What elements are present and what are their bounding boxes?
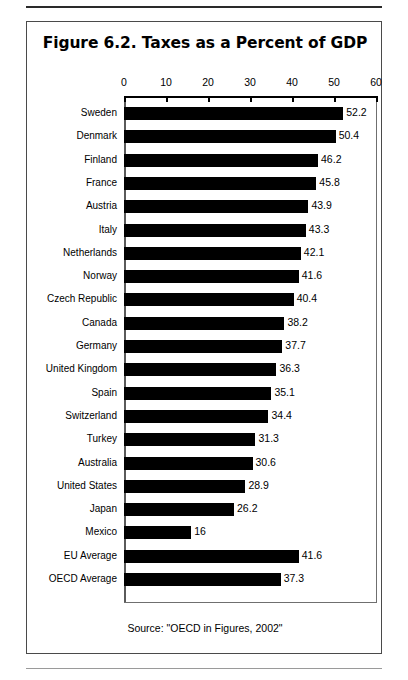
- bar-value-label: 46.2: [318, 153, 341, 166]
- bar-value-label: 30.6: [253, 456, 276, 469]
- x-tick: [334, 96, 336, 102]
- bar: [124, 526, 191, 539]
- x-tick: [250, 96, 252, 102]
- bar: [124, 480, 245, 493]
- bar-row: Germany37.7: [124, 340, 376, 353]
- category-label: Switzerland: [28, 409, 122, 422]
- bar: [124, 177, 316, 190]
- category-label: Turkey: [28, 432, 122, 445]
- plot-area: 0102030405060 Sweden52.2Denmark50.4Finla…: [124, 102, 376, 602]
- bar-row: Sweden52.2: [124, 107, 376, 120]
- category-label: OECD Average: [28, 572, 122, 585]
- bar-row: United Kingdom36.3: [124, 363, 376, 376]
- plot-border-bottom: [124, 602, 377, 603]
- figure-frame: Figure 6.2. Taxes as a Percent of GDP 01…: [26, 21, 382, 654]
- bar: [124, 293, 294, 306]
- bar: [124, 573, 281, 586]
- category-label: Canada: [28, 316, 122, 329]
- bar: [124, 340, 282, 353]
- x-tick-label: 20: [202, 76, 214, 88]
- bar-row: Canada38.2: [124, 317, 376, 330]
- bar: [124, 363, 276, 376]
- bar-value-label: 43.3: [306, 223, 329, 236]
- category-label: Czech Republic: [28, 292, 122, 305]
- bar-value-label: 41.6: [299, 549, 322, 562]
- bar: [124, 247, 301, 260]
- chart-title: Figure 6.2. Taxes as a Percent of GDP: [27, 34, 383, 52]
- category-label: United Kingdom: [28, 362, 122, 375]
- bar: [124, 154, 318, 167]
- bar-row: Spain35.1: [124, 387, 376, 400]
- bar-value-label: 26.2: [234, 502, 257, 515]
- bar-value-label: 45.8: [316, 176, 339, 189]
- source-note: Source: "OECD in Figures, 2002": [27, 622, 383, 634]
- category-label: Denmark: [28, 129, 122, 142]
- plot-border-right: [376, 102, 377, 602]
- bar-value-label: 37.3: [281, 572, 304, 585]
- header-rule: [26, 6, 382, 8]
- category-label: EU Average: [28, 549, 122, 562]
- bar: [124, 433, 255, 446]
- bar: [124, 457, 253, 470]
- bar-row: EU Average41.6: [124, 550, 376, 563]
- bar: [124, 224, 306, 237]
- bar-value-label: 40.4: [294, 292, 317, 305]
- bar-value-label: 16: [191, 525, 206, 538]
- x-tick: [292, 96, 294, 102]
- category-label: Italy: [28, 223, 122, 236]
- bar-value-label: 34.4: [268, 409, 291, 422]
- bar: [124, 107, 343, 120]
- bar-value-label: 28.9: [245, 479, 268, 492]
- bar-value-label: 31.3: [255, 432, 278, 445]
- x-tick-label: 60: [370, 76, 382, 88]
- bar-value-label: 50.4: [336, 129, 359, 142]
- x-tick-label: 10: [160, 76, 172, 88]
- bar-value-label: 41.6: [299, 269, 322, 282]
- bar-row: France45.8: [124, 177, 376, 190]
- x-tick: [166, 96, 168, 102]
- category-label: Netherlands: [28, 246, 122, 259]
- category-label: Mexico: [28, 525, 122, 538]
- x-tick: [376, 96, 378, 102]
- x-tick-label: 50: [328, 76, 340, 88]
- bar-row: Turkey31.3: [124, 433, 376, 446]
- category-label: Japan: [28, 502, 122, 515]
- bar-value-label: 37.7: [282, 339, 305, 352]
- bar: [124, 503, 234, 516]
- bar-row: Australia30.6: [124, 457, 376, 470]
- bar-row: Norway41.6: [124, 270, 376, 283]
- bar-value-label: 36.3: [276, 362, 299, 375]
- bar-row: Mexico16: [124, 526, 376, 539]
- x-tick: [124, 96, 126, 102]
- bar-value-label: 42.1: [301, 246, 324, 259]
- bar-row: Netherlands42.1: [124, 247, 376, 260]
- page-bottom-rule: [26, 668, 382, 669]
- bar-value-label: 52.2: [343, 106, 366, 119]
- bar: [124, 130, 336, 143]
- category-label: Norway: [28, 269, 122, 282]
- category-label: Australia: [28, 456, 122, 469]
- bar-row: Denmark50.4: [124, 130, 376, 143]
- bar-value-label: 35.1: [271, 386, 294, 399]
- bar: [124, 317, 284, 330]
- category-label: Finland: [28, 153, 122, 166]
- category-label: Sweden: [28, 106, 122, 119]
- page-running-head: [0, 0, 408, 9]
- bar: [124, 550, 299, 563]
- category-label: Germany: [28, 339, 122, 352]
- bar-row: Czech Republic40.4: [124, 293, 376, 306]
- bar-row: Finland46.2: [124, 154, 376, 167]
- bar: [124, 387, 271, 400]
- category-label: United States: [28, 479, 122, 492]
- bar-row: Austria43.9: [124, 200, 376, 213]
- bar-row: Switzerland34.4: [124, 410, 376, 423]
- bar: [124, 270, 299, 283]
- bar-value-label: 43.9: [308, 199, 331, 212]
- bar-row: Italy43.3: [124, 224, 376, 237]
- bar-row: United States28.9: [124, 480, 376, 493]
- bar-value-label: 38.2: [284, 316, 307, 329]
- category-label: Austria: [28, 199, 122, 212]
- x-tick-label: 40: [286, 76, 298, 88]
- x-tick-label: 30: [244, 76, 256, 88]
- bar: [124, 410, 268, 423]
